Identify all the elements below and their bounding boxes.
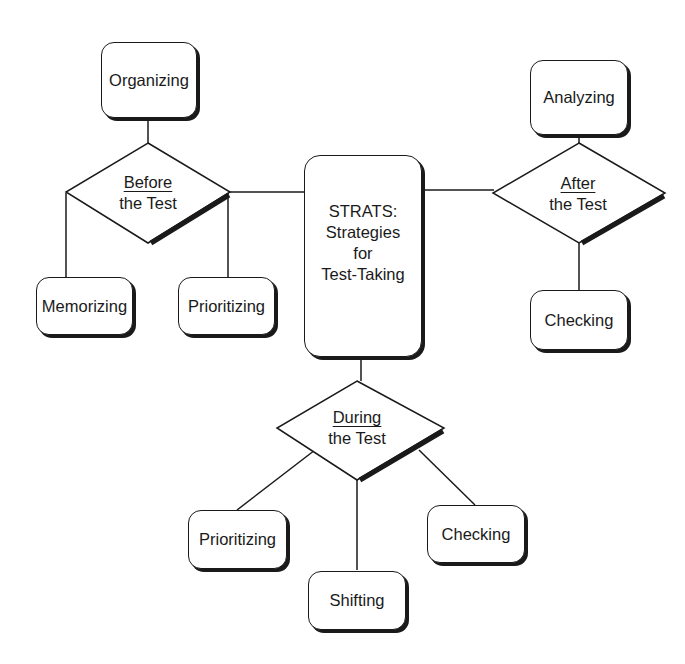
shifting-label: Shifting: [329, 590, 384, 611]
memorizing-label: Memorizing: [42, 296, 127, 317]
before-subtitle: the Test: [119, 193, 176, 214]
strats-center-node: STRATS: Strategies for Test-Taking: [304, 155, 422, 357]
prioritizing-before-label: Prioritizing: [188, 296, 265, 317]
during-subtitle: the Test: [328, 428, 385, 449]
after-title: After: [549, 173, 606, 194]
strats-line-2: Strategies: [326, 222, 400, 243]
prioritizing-during-node: Prioritizing: [188, 510, 287, 569]
organizing-node: Organizing: [101, 42, 197, 118]
strats-line-1: STRATS:: [329, 201, 397, 222]
shifting-node: Shifting: [308, 571, 406, 630]
analyzing-node: Analyzing: [530, 60, 628, 135]
checking-after-node: Checking: [530, 290, 628, 350]
analyzing-label: Analyzing: [543, 87, 615, 108]
memorizing-node: Memorizing: [36, 277, 133, 335]
prioritizing-before-node: Prioritizing: [178, 277, 275, 335]
strats-line-3: for: [353, 243, 372, 264]
strats-line-4: Test-Taking: [321, 264, 404, 285]
before-the-test-label: Before the Test: [119, 172, 176, 214]
checking-after-label: Checking: [545, 310, 614, 331]
during-the-test-label: During the Test: [328, 407, 385, 449]
prioritizing-during-label: Prioritizing: [199, 529, 276, 550]
during-title: During: [328, 407, 385, 428]
checking-during-node: Checking: [427, 505, 525, 563]
after-the-test-label: After the Test: [549, 173, 606, 215]
before-title: Before: [119, 172, 176, 193]
after-subtitle: the Test: [549, 194, 606, 215]
organizing-label: Organizing: [109, 70, 189, 91]
checking-during-label: Checking: [442, 524, 511, 545]
